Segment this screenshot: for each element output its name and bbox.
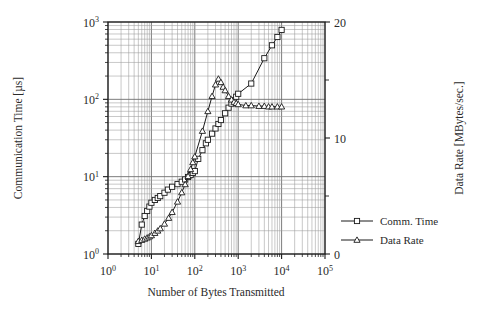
data-point-marker xyxy=(279,27,284,32)
data-point-marker xyxy=(205,137,210,142)
data-point-marker xyxy=(275,34,280,39)
data-point-marker xyxy=(262,56,267,61)
data-point-marker xyxy=(200,148,205,153)
data-point-marker xyxy=(209,131,214,136)
communication-time-data-rate-chart: 10010110210310410510010110210301020 Comm… xyxy=(0,0,485,316)
y-axis-left-title: Communication Time [µs] xyxy=(12,77,25,199)
tick-label: 0 xyxy=(334,248,340,262)
data-point-marker xyxy=(354,218,359,223)
legend-label: Comm. Time xyxy=(380,215,438,227)
tick-label: 20 xyxy=(334,16,346,30)
data-point-marker xyxy=(249,81,254,86)
y-axis-right-title: Data Rate [MBytes/sec.] xyxy=(453,81,466,194)
data-point-marker xyxy=(139,222,144,227)
tick-label: 10 xyxy=(334,132,346,146)
chart-figure: 10010110210310410510010110210301020 Comm… xyxy=(0,0,485,316)
data-point-marker xyxy=(218,117,223,122)
data-point-marker xyxy=(269,43,274,48)
legend-label: Data Rate xyxy=(380,234,424,246)
data-point-marker xyxy=(223,111,228,116)
data-point-marker xyxy=(170,184,175,189)
data-point-marker xyxy=(142,213,147,218)
x-axis-title: Number of Bytes Transmitted xyxy=(147,286,284,299)
data-point-marker xyxy=(236,91,241,96)
